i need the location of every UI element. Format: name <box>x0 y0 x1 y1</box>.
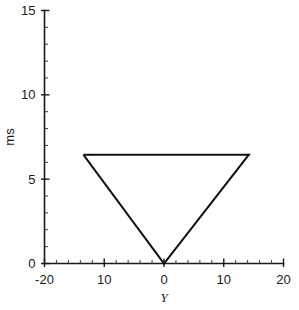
chart-figure: 051015-201001020Yms <box>0 0 299 310</box>
data-series-triangle-outline <box>83 155 249 264</box>
x-axis-tick-label: 0 <box>160 272 167 287</box>
y-axis-tick-label: 0 <box>28 256 35 271</box>
x-axis-tick-label: 10 <box>97 272 111 287</box>
y-axis-tick-label: 15 <box>21 3 35 18</box>
x-axis-tick-label: -20 <box>35 272 54 287</box>
y-axis-tick-label: 5 <box>28 172 35 187</box>
y-axis-title: ms <box>2 128 17 146</box>
y-axis-tick-label: 10 <box>21 87 35 102</box>
x-axis-title: Y <box>160 290 169 305</box>
chart-plot-area: 051015-201001020Yms <box>0 0 299 310</box>
x-axis-tick-label: 10 <box>217 272 231 287</box>
x-axis-tick-label: 20 <box>276 272 290 287</box>
